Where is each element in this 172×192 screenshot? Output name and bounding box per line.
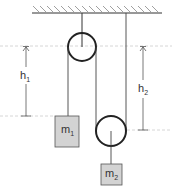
ceiling-hatch	[54, 6, 60, 12]
ceiling-hatch	[117, 6, 123, 12]
ceiling-hatch	[96, 6, 102, 12]
ceiling-hatch	[75, 6, 81, 12]
ceiling-hatch	[145, 6, 151, 12]
ceiling-hatch	[152, 6, 158, 12]
mass-m2-subscript: 2	[114, 174, 118, 181]
height-h2: h2	[138, 47, 148, 131]
ceiling-hatch	[110, 6, 116, 12]
mass-m2: m2	[101, 164, 122, 185]
ceiling-hatch	[68, 6, 74, 12]
ceiling-hatch	[103, 6, 109, 12]
ceiling-hatch	[131, 6, 137, 12]
ceiling-hatch	[61, 6, 67, 12]
mass-m1-label: m	[61, 123, 70, 135]
ceiling-hatch	[40, 6, 46, 12]
height-h1-subscript: 1	[26, 76, 30, 83]
ceiling-hatch	[82, 6, 88, 12]
ceiling	[32, 6, 162, 13]
pulley-diagram: m1 m2 h1 h2	[0, 0, 172, 192]
height-h2-subscript: 2	[144, 89, 148, 96]
ceiling-hatch	[89, 6, 95, 12]
mass-m1-subscript: 1	[70, 130, 74, 137]
svg-text:h1: h1	[20, 69, 30, 83]
height-h1: h1	[20, 47, 31, 117]
ceiling-hatch	[138, 6, 144, 12]
ceiling-hatch	[47, 6, 53, 12]
ceiling-hatch	[124, 6, 130, 12]
ceiling-hatch	[33, 6, 39, 12]
svg-text:h2: h2	[138, 82, 148, 96]
mass-m1: m1	[55, 116, 79, 147]
mass-m2-label: m	[105, 167, 114, 179]
